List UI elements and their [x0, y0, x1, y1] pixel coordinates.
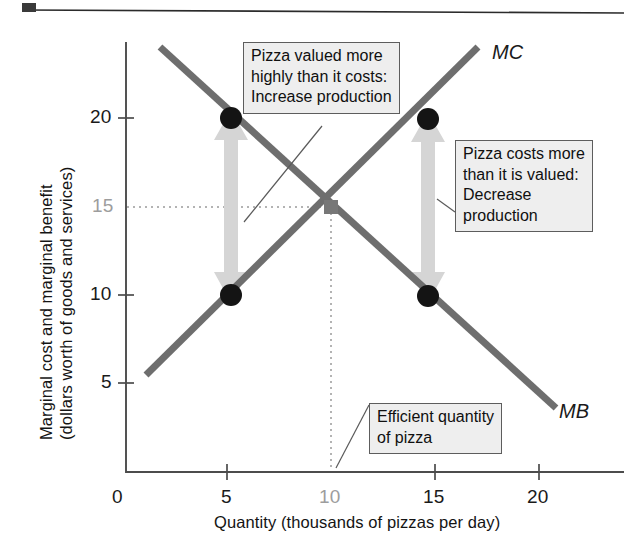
callout-decrease-line3: Decrease: [463, 185, 585, 206]
mb-curve-label: MB: [559, 400, 589, 423]
callout-efficient-line1: Efficient quantity: [377, 407, 494, 428]
y-tick-label-20: 20: [90, 106, 112, 128]
y-axis-title-line2: (dollars worth of goods and services): [56, 167, 76, 440]
callout-increase-line1: Pizza valued more: [251, 46, 392, 67]
callout-increase-production: Pizza valued more highly than it costs: …: [243, 42, 400, 114]
y-tick-label-5: 5: [101, 371, 112, 393]
callout-decrease-production: Pizza costs more than it is valued: Decr…: [455, 140, 593, 232]
leader-decrease: [437, 199, 455, 212]
figure-container: Marginal cost and marginal benefit (doll…: [0, 0, 631, 550]
callout-increase-line3: Increase production: [251, 87, 392, 108]
callout-decrease-line1: Pizza costs more: [463, 144, 585, 165]
y-axis-title-line1: Marginal cost and marginal benefit: [36, 167, 56, 440]
dot-mc-q15-20: [417, 108, 439, 130]
dot-mb-q5-20: [220, 107, 242, 129]
equilibrium-marker: [324, 200, 338, 214]
x-tick-label-15: 15: [423, 486, 445, 508]
dot-mb-q15-10: [417, 285, 439, 307]
callout-efficient-quantity: Efficient quantity of pizza: [369, 403, 502, 454]
x-axis-title: Quantity (thousands of pizzas per day): [214, 513, 500, 532]
callout-efficient-line2: of pizza: [377, 428, 494, 449]
x-tick-label-10: 10: [319, 486, 341, 508]
x-tick-label-20: 20: [527, 486, 549, 508]
dot-mc-q5-10: [220, 284, 242, 306]
y-axis-title: Marginal cost and marginal benefit (doll…: [36, 167, 76, 440]
y-tick-label-15: 15: [92, 195, 114, 217]
callout-decrease-line4: production: [463, 206, 585, 227]
top-rule: [22, 3, 624, 13]
callout-decrease-line2: than it is valued:: [463, 165, 585, 186]
x-tick-label-5: 5: [221, 486, 232, 508]
right-gap-arrow: [411, 112, 445, 303]
y-tick-label-10: 10: [90, 283, 112, 305]
callout-increase-line2: highly than it costs:: [251, 67, 392, 88]
mc-curve-label: MC: [492, 41, 523, 64]
x-tick-label-0: 0: [112, 486, 123, 508]
leader-efficient: [336, 405, 369, 468]
